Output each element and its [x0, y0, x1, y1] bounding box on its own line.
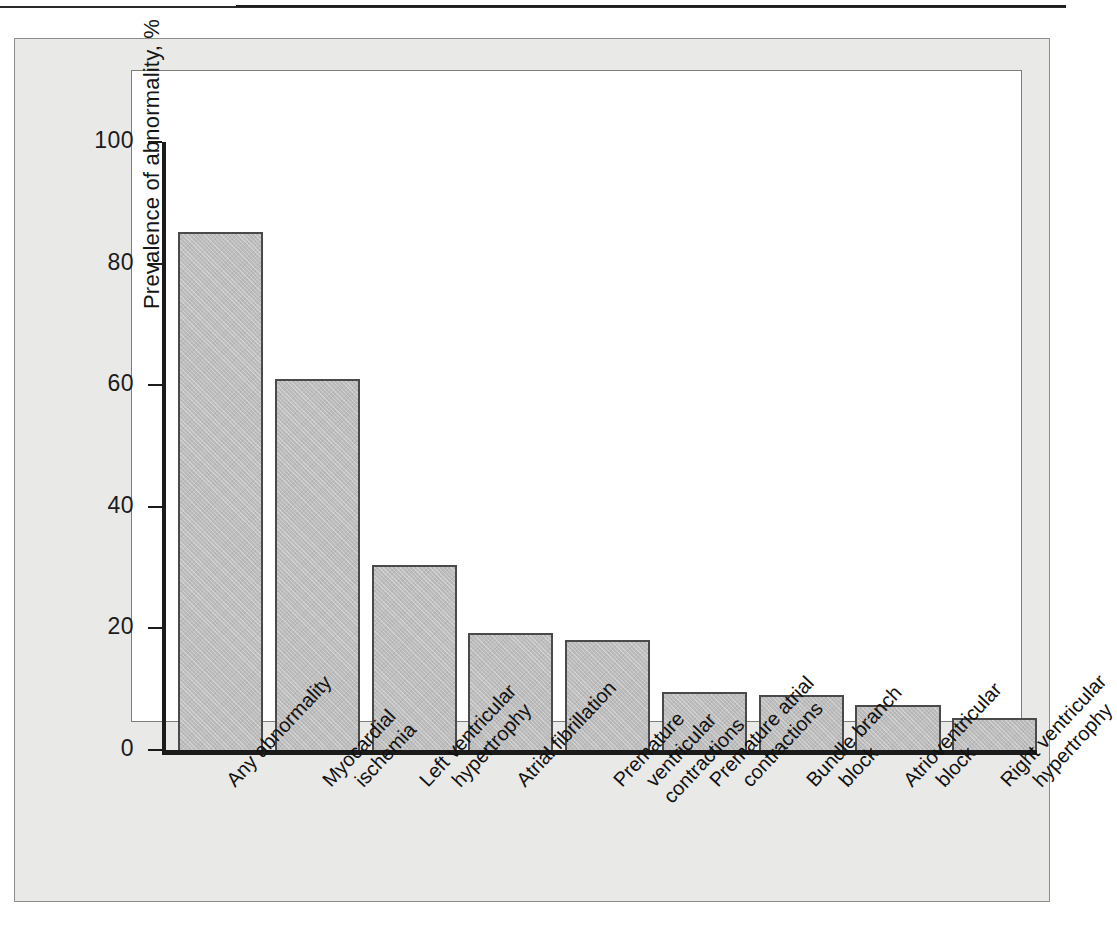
- y-tick-label: 40: [74, 492, 134, 519]
- x-axis-label-layer: Any abnormalityMyocardialischemiaLeft ve…: [147, 761, 1037, 932]
- page-top-rule: [0, 5, 1066, 8]
- y-tick-label: 100: [74, 127, 134, 154]
- y-tick-label: 20: [74, 613, 134, 640]
- bar[interactable]: [178, 232, 263, 750]
- bars-layer: [147, 109, 1037, 755]
- y-tick-label: 80: [74, 249, 134, 276]
- figure-panel: Prevalence of abnormality, % 02040608010…: [14, 38, 1050, 902]
- chart-axes: Prevalence of abnormality, % 02040608010…: [147, 109, 1037, 754]
- y-tick-label: 0: [74, 735, 134, 762]
- y-tick-label: 60: [74, 370, 134, 397]
- page-top-rule-ink: [236, 5, 1066, 7]
